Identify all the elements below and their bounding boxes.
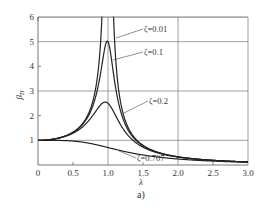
response-curves <box>37 0 249 162</box>
x-axis-label: λ <box>138 177 143 187</box>
x-tick-label: 1.0 <box>102 168 114 178</box>
annotation-label: ζ=0.01 <box>144 24 167 34</box>
annotation-leader <box>116 29 143 38</box>
x-tick-label: 2.5 <box>207 168 219 178</box>
y-tick-label: 5 <box>30 37 35 47</box>
curve-annotations: ζ=0.01ζ=0.1ζ=0.2ζ=0.707 <box>113 24 168 163</box>
curve-zeta-0.01 <box>38 14 248 162</box>
y-axis-label: βD <box>14 90 25 100</box>
x-tick-label: 3.0 <box>242 168 254 178</box>
x-tick-label: 0 <box>36 168 41 178</box>
x-tick-label: 0.5 <box>67 168 79 178</box>
curve-zeta-0.1 <box>38 41 248 162</box>
annotation-leader <box>113 52 143 60</box>
x-tick-label: 2.0 <box>172 168 184 178</box>
y-tick-label: 6 <box>30 12 35 22</box>
annotation-leader <box>124 101 148 113</box>
annotation-label: ζ=0.2 <box>149 96 168 106</box>
subfigure-label: a) <box>137 189 145 201</box>
grid-lines <box>38 17 248 165</box>
annotation-label: ζ=0.1 <box>144 47 163 57</box>
y-tick-label: 4 <box>30 61 35 71</box>
y-tick-label: 3 <box>30 86 35 96</box>
annotation-label: ζ=0.707 <box>137 153 164 163</box>
y-tick-label: 2 <box>30 111 35 121</box>
y-tick-label: 1 <box>30 135 35 145</box>
frequency-response-chart: 00.51.01.52.02.53.0123456 ζ=0.01ζ=0.1ζ=0… <box>0 0 265 212</box>
